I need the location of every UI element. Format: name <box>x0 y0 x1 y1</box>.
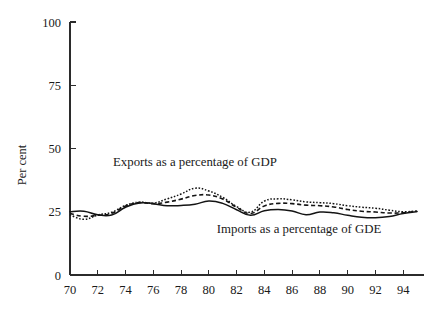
annotation-label-2: Imports as a percentage of GDE <box>217 222 382 236</box>
series-line-dotted <box>70 188 417 219</box>
y-tick-label-0: 0 <box>55 269 61 283</box>
y-axis-title: Per cent <box>15 144 29 185</box>
x-tick-label-94: 94 <box>397 283 410 297</box>
x-tick-label-80: 80 <box>203 283 216 297</box>
x-tick-label-84: 84 <box>258 283 271 297</box>
chart-annotations-group: Exports as a percentage of GDPImports as… <box>113 155 381 236</box>
x-tick-label-70: 70 <box>64 283 77 297</box>
y-tick-label-75: 75 <box>49 79 62 93</box>
x-tick-label-88: 88 <box>314 283 327 297</box>
chart-figure: 0255075100 70727476788082848688909294 Pe… <box>0 0 438 316</box>
x-tick-label-90: 90 <box>341 283 354 297</box>
data-series-group <box>70 188 417 219</box>
line-chart-canvas: 0255075100 70727476788082848688909294 Pe… <box>0 0 438 316</box>
x-axis-ticks <box>70 270 403 275</box>
axes-group <box>70 22 424 275</box>
x-tick-label-86: 86 <box>286 283 299 297</box>
x-tick-label-92: 92 <box>369 283 382 297</box>
x-axis-tick-labels: 70727476788082848688909294 <box>64 283 410 297</box>
y-tick-label-100: 100 <box>42 16 61 30</box>
y-axis-tick-labels: 0255075100 <box>42 16 61 283</box>
x-tick-label-74: 74 <box>119 283 132 297</box>
y-tick-label-50: 50 <box>49 142 62 156</box>
series-line-solid <box>70 201 417 218</box>
x-tick-label-82: 82 <box>230 283 243 297</box>
x-tick-label-72: 72 <box>92 283 105 297</box>
y-axis-ticks <box>70 22 76 275</box>
annotation-label-1: Exports as a percentage of GDP <box>113 155 277 169</box>
x-tick-label-76: 76 <box>147 283 160 297</box>
x-tick-label-78: 78 <box>175 283 188 297</box>
y-tick-label-25: 25 <box>49 205 62 219</box>
